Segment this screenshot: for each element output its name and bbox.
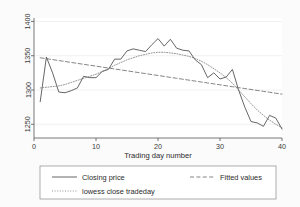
y-axis-ticks [31, 21, 34, 124]
x-axis-title: Trading day number [124, 151, 192, 160]
x-axis-tick-label: 40 [278, 142, 286, 151]
x-axis-tick-label: 0 [32, 142, 36, 151]
y-axis-tick-label: 1350 [24, 48, 33, 64]
x-axis-tick-label: 10 [92, 142, 100, 151]
chart-legend: Closing priceFitted valueslowess close t… [40, 166, 276, 199]
legend-label-2: lowess close tradeday [82, 187, 155, 196]
y-axis-tick-label: 1300 [24, 82, 33, 98]
plot-area-background [34, 18, 282, 138]
chart-figure: 1250130013501400 010203040 Trading day n… [0, 0, 300, 207]
y-axis-tick-label: 1400 [24, 13, 33, 29]
x-axis-tick-label: 30 [216, 142, 224, 151]
line-chart: 1250130013501400 010203040 Trading day n… [0, 0, 300, 207]
legend-label-1: Fitted values [220, 173, 262, 182]
legend-border [40, 166, 276, 199]
y-axis-tick-label: 1250 [24, 116, 33, 132]
x-axis-tick-labels: 010203040 [32, 142, 286, 151]
x-axis-tick-label: 20 [154, 142, 162, 151]
legend-label-0: Closing price [82, 173, 125, 182]
x-axis-ticks [34, 138, 282, 141]
y-axis-tick-labels: 1250130013501400 [24, 13, 33, 132]
